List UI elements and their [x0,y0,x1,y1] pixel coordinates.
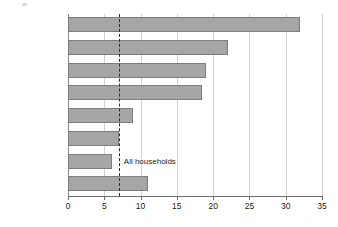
bar [68,176,148,191]
all-households-reference-line [119,14,120,196]
bar-row: Buddhist [68,82,322,105]
bar [68,63,206,78]
bar-chart: MuslimHinduSikhBuddhistNo ReligionJewish… [0,0,338,227]
x-tick-label: 0 [66,202,71,211]
bar-row: Jewish [68,128,322,151]
x-tick-30 [286,196,287,200]
bar [68,108,133,123]
decorative-speck [22,3,27,6]
bar-row: No Religion [68,105,322,128]
x-tick-label: 10 [136,202,145,211]
x-tick-0 [68,196,69,200]
all-households-label: All households [124,158,176,166]
bar-row: Sikh [68,60,322,83]
bar-row: Christian [68,151,322,174]
bar [68,131,119,146]
bar-row: Muslim [68,14,322,37]
x-tick-5 [104,196,105,200]
bar [68,85,202,100]
x-tick-label: 35 [317,202,326,211]
bar-row: Hindu [68,37,322,60]
x-tick-15 [177,196,178,200]
bar [68,17,300,32]
x-tick-label: 30 [281,202,290,211]
bar [68,154,112,169]
gridline-35 [322,14,323,196]
bar-row: Other religions [68,173,322,196]
x-tick-25 [249,196,250,200]
bar [68,40,228,55]
plot-area: MuslimHinduSikhBuddhistNo ReligionJewish… [68,14,322,196]
x-tick-20 [213,196,214,200]
x-tick-10 [141,196,142,200]
x-tick-label: 20 [208,202,217,211]
x-tick-35 [322,196,323,200]
x-axis-line [68,196,322,197]
x-tick-label: 15 [172,202,181,211]
bar-rows: MuslimHinduSikhBuddhistNo ReligionJewish… [68,14,322,196]
x-tick-label: 25 [245,202,254,211]
x-tick-label: 5 [102,202,107,211]
